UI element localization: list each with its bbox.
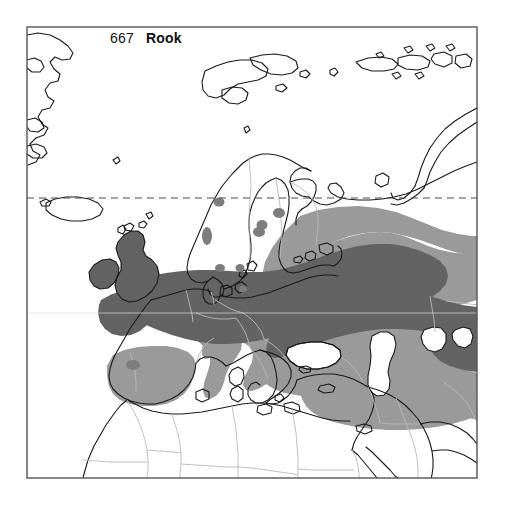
distribution-map-figure: 667Rook <box>0 0 507 509</box>
population-dot-sweden-west <box>236 264 245 272</box>
page-title: 667Rook <box>110 30 182 46</box>
population-dot-finland-north <box>273 208 285 218</box>
map-canvas <box>0 0 507 509</box>
population-dot-norway-north <box>214 198 225 207</box>
population-dot-spain-central <box>126 360 140 370</box>
plate-number: 667 <box>110 30 134 46</box>
population-dot-norway-oslo <box>202 227 212 245</box>
species-name: Rook <box>146 30 182 46</box>
population-dot-sweden-central <box>257 220 268 230</box>
population-dot-denmark <box>239 286 247 293</box>
population-dot-norway-south <box>215 264 225 272</box>
